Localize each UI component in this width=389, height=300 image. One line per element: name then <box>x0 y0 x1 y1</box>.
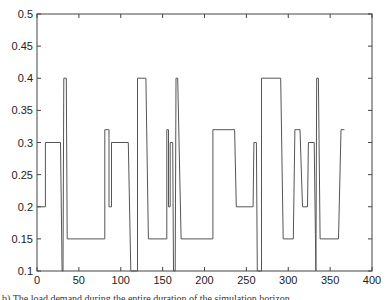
y-tick-label: 0.2 <box>18 201 33 213</box>
x-tick-label: 350 <box>321 274 339 286</box>
y-tick-label: 0.25 <box>12 169 33 181</box>
x-tick-label: 300 <box>279 274 297 286</box>
y-tick-label: 0.1 <box>18 265 33 277</box>
y-tick-label: 0.5 <box>18 8 33 20</box>
x-tick-label: 50 <box>73 274 85 286</box>
y-tick-label: 0.15 <box>12 233 33 245</box>
x-tick-label: 100 <box>112 274 130 286</box>
plot-area <box>37 14 372 271</box>
y-tick-label: 0.35 <box>12 104 33 116</box>
y-tick-label: 0.45 <box>12 40 33 52</box>
figure-caption: b) The load demand during the entire dur… <box>2 292 387 300</box>
x-tick-label: 0 <box>34 274 40 286</box>
x-tick-label: 400 <box>363 274 381 286</box>
x-axis-tick-labels: 050100150200250300350400 <box>34 274 381 286</box>
x-tick-label: 200 <box>195 274 213 286</box>
step-line-chart: 050100150200250300350400 0.10.150.20.250… <box>0 0 389 290</box>
x-tick-label: 250 <box>237 274 255 286</box>
y-tick-label: 0.3 <box>18 137 33 149</box>
y-axis-tick-labels: 0.10.150.20.250.30.350.40.450.5 <box>12 8 33 277</box>
y-tick-label: 0.4 <box>18 72 33 84</box>
x-tick-label: 150 <box>153 274 171 286</box>
